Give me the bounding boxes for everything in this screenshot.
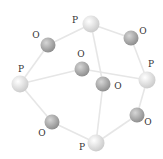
oxygen-atom: [96, 77, 111, 92]
atom-label-o6: O: [144, 118, 151, 127]
atom-label-o3: O: [77, 50, 84, 59]
atom-label-p3: P: [148, 60, 154, 69]
oxygen-atom: [124, 31, 139, 46]
oxygen-atom: [41, 38, 56, 53]
atom-label-o1: O: [32, 31, 39, 40]
atom-label-p2: P: [18, 65, 24, 74]
phosphorus-atom: [139, 72, 156, 89]
molecule-diagram: POOPOPOOOP: [0, 0, 163, 159]
atom-label-p4: P: [79, 143, 85, 152]
bond-p3-o3: [82, 69, 147, 80]
oxygen-atom: [45, 115, 60, 130]
oxygen-atom: [130, 108, 145, 123]
phosphorus-atom: [83, 16, 100, 33]
atom-label-p1: P: [72, 16, 78, 25]
oxygen-atom: [75, 62, 90, 77]
atom-label-o4: O: [114, 82, 121, 91]
atom-label-o5: O: [38, 129, 45, 138]
phosphorus-atom: [88, 135, 105, 152]
molecule-graphic: [0, 0, 163, 159]
atom-label-o2: O: [139, 27, 146, 36]
phosphorus-atom: [12, 76, 29, 93]
bond-p1-o4: [91, 24, 103, 84]
bond-p4-o4: [96, 84, 103, 143]
